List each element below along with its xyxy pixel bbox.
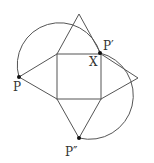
label-p-double-prime: P″ (65, 145, 78, 159)
geometry-diagram: P P′ X P″ (0, 0, 154, 163)
label-x: X (89, 55, 98, 69)
left-triangle (19, 54, 57, 99)
point-p (17, 75, 21, 79)
right-triangle (101, 54, 138, 99)
diagram-canvas: P P′ X P″ (0, 0, 154, 163)
point-p-prime (98, 51, 102, 55)
label-p-prime: P′ (103, 39, 114, 53)
upper-left-arc (17, 23, 100, 77)
bottom-triangle (57, 99, 101, 138)
point-p-double-prime (77, 136, 81, 140)
label-p: P (13, 80, 21, 94)
top-triangle (57, 14, 101, 54)
